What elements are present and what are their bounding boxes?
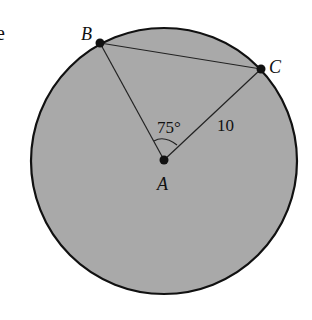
label-a: A [156,174,169,194]
circle-diagram: e B C A 75° 10 [0,0,312,320]
side-length-label: 10 [217,116,234,135]
point-c [257,65,266,74]
label-b: B [81,24,92,44]
label-c: C [269,57,282,77]
point-b [96,39,105,48]
point-a [160,156,169,165]
cropped-text-fragment: e [0,22,5,44]
angle-label: 75° [157,118,181,137]
